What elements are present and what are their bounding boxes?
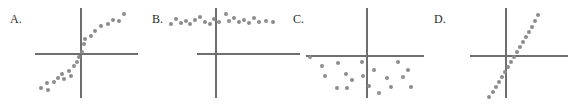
scatter-panel-c: C.: [290, 0, 430, 106]
data-point: [527, 30, 531, 34]
data-point: [99, 24, 103, 28]
data-point: [232, 16, 236, 20]
data-point: [497, 80, 501, 84]
data-point: [389, 85, 393, 89]
data-point: [252, 16, 256, 20]
data-point: [344, 72, 348, 76]
data-point: [345, 86, 349, 90]
data-point: [62, 77, 66, 81]
x-axis-b: [197, 53, 300, 55]
data-point: [360, 60, 364, 64]
y-axis-d: [505, 8, 507, 98]
data-point: [106, 22, 110, 26]
data-point: [208, 22, 212, 26]
data-point: [335, 86, 339, 90]
data-point: [533, 19, 537, 23]
data-point: [491, 90, 495, 94]
data-point: [111, 18, 115, 22]
data-point: [224, 12, 228, 16]
data-point: [75, 60, 79, 64]
data-point: [77, 55, 81, 59]
scatter-panel-b: B.: [145, 0, 290, 106]
data-point: [237, 20, 241, 24]
data-point: [217, 20, 221, 24]
data-point: [396, 60, 400, 64]
data-point: [500, 75, 504, 79]
data-point: [69, 74, 73, 78]
data-point: [503, 70, 507, 74]
data-point: [308, 55, 312, 59]
data-point: [52, 80, 56, 84]
panels-container: A.B.C.D.: [0, 0, 569, 106]
data-point: [264, 19, 268, 23]
data-point: [45, 81, 49, 85]
data-point: [367, 84, 371, 88]
data-point: [198, 15, 202, 19]
data-point: [518, 45, 522, 49]
data-point: [179, 21, 183, 25]
scatter-panel-a: A.: [0, 0, 145, 106]
data-point: [506, 65, 510, 69]
data-point: [487, 95, 491, 99]
data-point: [515, 50, 519, 54]
data-point: [494, 85, 498, 89]
x-axis-a: [35, 53, 138, 55]
data-point: [203, 20, 207, 24]
panel-label-c: C.: [293, 13, 304, 25]
data-point: [122, 12, 126, 16]
data-point: [212, 17, 216, 21]
x-axis-c: [306, 55, 424, 57]
data-point: [372, 68, 376, 72]
data-point: [60, 72, 64, 76]
data-point: [174, 17, 178, 21]
data-point: [72, 64, 76, 68]
data-point: [509, 60, 513, 64]
x-axis-d: [470, 55, 568, 57]
data-point: [56, 76, 60, 80]
data-point: [83, 37, 87, 41]
data-point: [361, 74, 365, 78]
scatterplot-figure: A.B.C.D.: [0, 0, 569, 106]
data-point: [530, 25, 534, 29]
data-point: [512, 55, 516, 59]
data-point: [193, 18, 197, 22]
data-point: [247, 21, 251, 25]
data-point: [385, 76, 389, 80]
data-point: [323, 74, 327, 78]
data-point: [242, 18, 246, 22]
data-point: [401, 75, 405, 79]
data-point: [39, 86, 43, 90]
panel-label-d: D.: [434, 13, 446, 25]
data-point: [93, 29, 97, 33]
data-point: [117, 19, 121, 23]
data-point: [46, 88, 50, 92]
data-point: [409, 85, 413, 89]
panel-label-b: B.: [152, 13, 163, 25]
scatter-panel-d: D.: [430, 0, 569, 106]
data-point: [188, 22, 192, 26]
data-point: [67, 69, 71, 73]
data-point: [536, 13, 540, 17]
data-point: [227, 19, 231, 23]
data-point: [336, 61, 340, 65]
data-point: [80, 50, 84, 54]
data-point: [521, 40, 525, 44]
data-point: [89, 34, 93, 38]
data-point: [82, 42, 86, 46]
data-point: [350, 78, 354, 82]
panel-label-a: A.: [10, 13, 22, 25]
data-point: [169, 22, 173, 26]
data-point: [524, 35, 528, 39]
data-point: [377, 91, 381, 95]
data-point: [406, 68, 410, 72]
data-point: [271, 20, 275, 24]
data-point: [257, 20, 261, 24]
data-point: [320, 64, 324, 68]
